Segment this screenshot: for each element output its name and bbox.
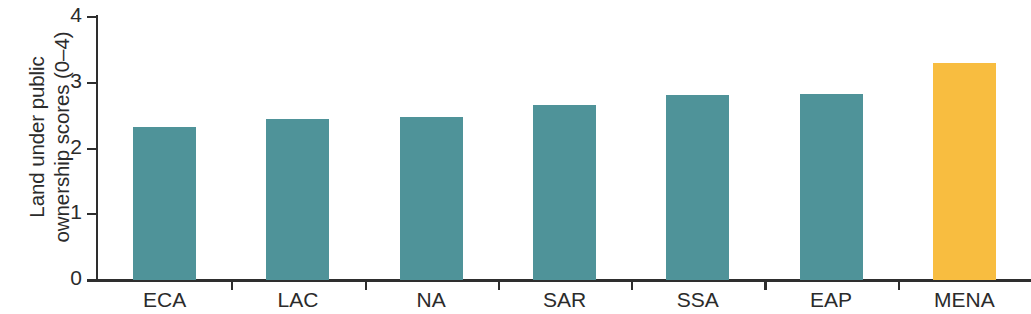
x-axis-label-mena: MENA: [934, 288, 995, 312]
bars-group: [0, 0, 1031, 280]
x-axis-tick: [764, 281, 766, 290]
x-axis-label-ssa: SSA: [677, 288, 719, 312]
x-axis-label-na: NA: [417, 288, 446, 312]
bar-na: [400, 117, 463, 280]
x-axis-tick: [898, 281, 900, 290]
bar-mena: [933, 63, 996, 280]
x-axis-label-lac: LAC: [277, 288, 318, 312]
x-axis-tick: [498, 281, 500, 290]
bar-sar: [533, 105, 596, 280]
x-axis-label-eca: ECA: [143, 288, 186, 312]
x-axis-tick: [631, 281, 633, 290]
x-axis-tick: [231, 281, 233, 290]
bar-eap: [800, 94, 863, 280]
bar-lac: [266, 119, 329, 280]
x-axis-label-eap: EAP: [810, 288, 852, 312]
bar-eca: [133, 127, 196, 280]
bar-ssa: [666, 95, 729, 280]
bar-chart: Land under public ownership scores (0–4)…: [0, 0, 1031, 314]
x-axis-label-sar: SAR: [543, 288, 586, 312]
x-axis-tick: [365, 281, 367, 290]
